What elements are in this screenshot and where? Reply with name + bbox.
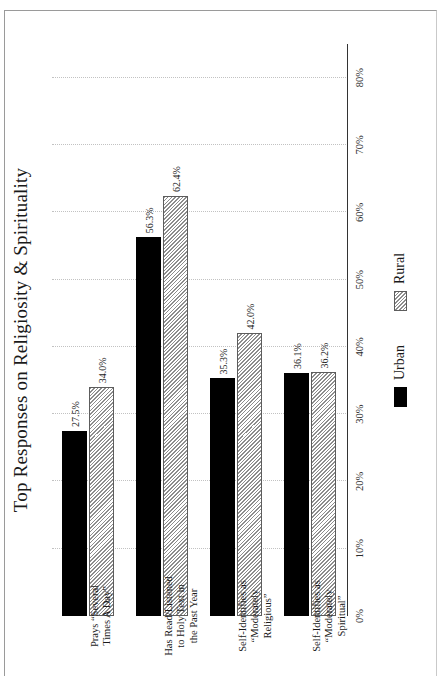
legend-label: Urban [392, 345, 408, 380]
bar-value-label: 34.0% [96, 357, 107, 387]
category-label-line: Prays “Several [89, 541, 101, 680]
bar-row: 36.2% [311, 44, 336, 616]
chart-rotation-wrapper: Top Responses on Religiosity & Spiritual… [0, 0, 442, 680]
axis-tick-label: 30% [354, 405, 365, 424]
bar-group: 27.5%34.0% [62, 44, 116, 616]
bar-urban[interactable] [62, 431, 87, 616]
category-label-line: Self-Identifies as [237, 541, 249, 680]
legend-label: Rural [392, 253, 408, 284]
category-label-line: the Past Year [188, 541, 200, 680]
legend-swatch-rural [394, 291, 407, 311]
chart-legend: UrbanRural [392, 44, 408, 616]
legend-swatch-urban [394, 387, 407, 407]
category-label-line: Spiritual” [336, 541, 348, 680]
bar-group: 56.3%62.4% [136, 44, 190, 616]
legend-item-rural[interactable]: Rural [392, 253, 408, 311]
bar-urban[interactable] [136, 237, 161, 616]
bar-group: 36.1%36.2% [284, 44, 338, 616]
category-label-line: Self-Identifies as [311, 541, 323, 680]
bar-row: 42.0% [237, 44, 262, 616]
bar-row: 56.3% [136, 44, 161, 616]
bar-row: 34.0% [89, 44, 114, 616]
bar-value-label: 62.4% [170, 166, 181, 196]
legend-item-urban[interactable]: Urban [392, 345, 408, 407]
value-axis-line [347, 44, 348, 616]
axis-tick-label: 40% [354, 337, 365, 356]
axis-tick-label: 60% [354, 203, 365, 222]
bar-value-label: 27.5% [69, 401, 80, 431]
category-label-line: “Moderately [249, 541, 261, 680]
bar-value-label: 35.3% [217, 349, 228, 379]
bar-row: 35.3% [210, 44, 235, 616]
bar-row: 36.1% [284, 44, 309, 616]
category-label-line: “Moderately [323, 541, 335, 680]
bar-urban[interactable] [284, 373, 309, 616]
axis-tick-label: 70% [354, 135, 365, 154]
bar-row: 27.5% [62, 44, 87, 616]
axis-tick-label: 10% [354, 539, 365, 558]
category-label-line: Has Read/Listened [163, 541, 175, 680]
plot-area: 27.5%34.0%56.3%62.4%35.3%42.0%36.1%36.2%… [52, 44, 348, 616]
axis-tick-label: 80% [354, 68, 365, 87]
axis-tick-label: 50% [354, 270, 365, 289]
bar-value-label: 36.1% [291, 343, 302, 373]
axis-tick-label: 20% [354, 472, 365, 491]
category-label-line: Religious” [262, 541, 274, 680]
bar-group: 35.3%42.0% [210, 44, 264, 616]
bar-value-label: 42.0% [244, 304, 255, 334]
axis-tick-label: 0% [354, 609, 365, 623]
category-label-line: to Holy Text in [175, 541, 187, 680]
bar-value-label: 36.2% [318, 343, 329, 373]
bar-row: 62.4% [163, 44, 188, 616]
bar-chart: Top Responses on Religiosity & Spiritual… [0, 0, 442, 680]
bar-urban[interactable] [210, 378, 235, 616]
category-label-line: Times A Day” [101, 541, 113, 680]
bar-value-label: 56.3% [143, 207, 154, 237]
chart-title: Top Responses on Religiosity & Spiritual… [10, 0, 32, 680]
